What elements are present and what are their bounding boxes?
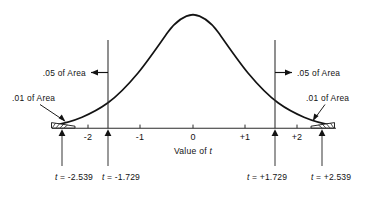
x-tick-label-zero: 0	[190, 132, 195, 142]
annotation-left-05-of-area: .05 of Area	[43, 68, 86, 78]
annotation-right-01-of-area: .01 of Area	[306, 93, 349, 103]
annotation-right-05-of-area: .05 of Area	[297, 68, 340, 78]
critical-label-plus-2539-value: = +2.539	[316, 172, 351, 182]
critical-label-plus-1729-symbol: t	[247, 172, 250, 182]
critical-label-minus-2539-value: = -2.539	[60, 172, 93, 182]
critical-label-plus-2539: t= +2.539	[311, 172, 351, 182]
critical-label-minus-1729-symbol: t	[102, 172, 105, 182]
marker-minus-1729	[105, 129, 112, 136]
x-axis-title-prefix: Value of	[174, 146, 210, 156]
critical-label-minus-1729-value: = -1.729	[107, 172, 140, 182]
x-tick-label-minus-2: -2	[84, 132, 92, 142]
critical-label-plus-1729: t= +1.729	[247, 172, 287, 182]
x-tick-label-plus-2: +2	[292, 132, 303, 142]
left-05-arrowhead	[91, 70, 98, 76]
marker-minus-2539	[59, 129, 66, 136]
marker-plus-1729	[272, 129, 279, 136]
right-05-arrowhead	[285, 70, 292, 76]
annotation-left-01-of-area: .01 of Area	[12, 93, 55, 103]
x-axis-title-symbol: t	[209, 146, 212, 156]
right-01-leader	[313, 105, 325, 122]
right-05-pointer	[275, 70, 292, 76]
x-tick-label-plus-1: +1	[240, 132, 251, 142]
x-axis-title: Value of t	[174, 146, 213, 156]
critical-label-plus-1729-value: = +1.729	[252, 172, 287, 182]
critical-label-plus-2539-symbol: t	[311, 172, 314, 182]
marker-plus-2539	[319, 129, 326, 136]
critical-label-minus-2539-symbol: t	[55, 172, 58, 182]
left-05-pointer	[91, 70, 108, 76]
x-tick-label-minus-1: -1	[136, 132, 144, 142]
left-01-arrowhead	[59, 115, 66, 122]
left-01-leader	[40, 105, 66, 122]
critical-label-minus-2539: t= -2.539	[55, 172, 93, 182]
critical-label-minus-1729: t= -1.729	[102, 172, 140, 182]
t-distribution-figure: -2 -1 0 +1 +2 Value of t .05 of Area .05…	[0, 0, 385, 198]
t-density-curve	[52, 15, 334, 126]
